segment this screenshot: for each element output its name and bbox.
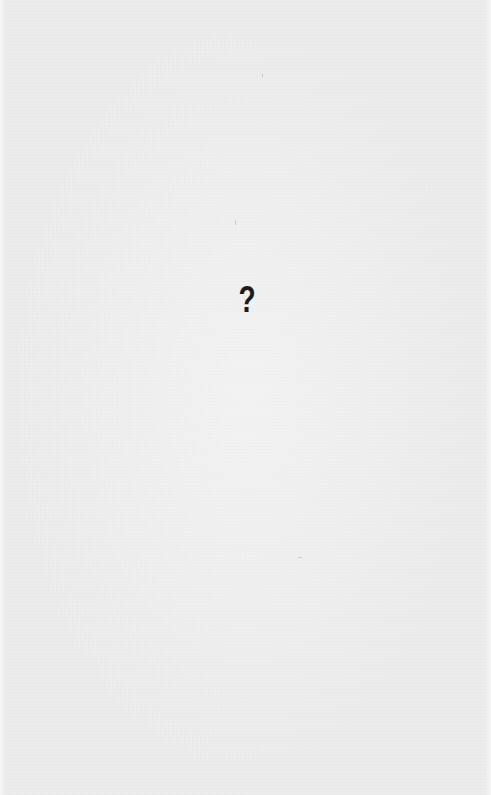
blank-paper-page: ? (0, 0, 491, 795)
paper-speck (235, 220, 236, 225)
paper-speck (262, 73, 263, 77)
paper-speck (298, 557, 302, 558)
question-mark: ? (237, 276, 257, 324)
